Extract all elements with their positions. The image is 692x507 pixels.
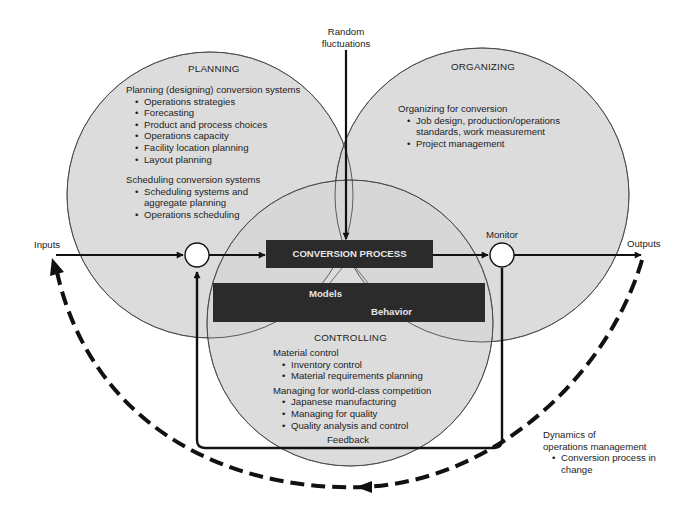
organizing-title: ORGANIZING [451,61,515,73]
planning-content: Planning (designing) conversion systems … [126,84,300,226]
planning-group-designing: Planning (designing) conversion systems … [126,84,300,165]
monitor-node [490,243,514,267]
models-behavior-box [213,283,485,322]
group-heading: Material control [273,347,431,359]
list-item: Operations strategies [135,96,300,108]
controlling-title: CONTROLLING [314,332,387,344]
conversion-process-label: CONVERSION PROCESS [266,248,433,259]
outputs-label: Outputs [627,238,661,250]
dynamics-heading-line: Dynamics of [543,429,656,441]
group-heading: Planning (designing) conversion systems [126,84,300,96]
behavior-label: Behavior [371,306,412,317]
feedback-label: Feedback [327,434,369,446]
list-item: Managing for quality [282,408,431,420]
controlling-group-world-class: Managing for world-class competition Jap… [273,385,431,431]
label-line: fluctuations [300,38,392,50]
list-item: Forecasting [135,107,300,119]
list-item-continuation: change [543,464,656,476]
list-item: Layout planning [135,154,300,166]
list-item: Inventory control [282,359,431,371]
dynamics-content: Dynamics of operations management Conver… [543,429,656,475]
list-item: Operations capacity [135,130,300,142]
list-item: Project management [407,138,560,150]
list-item: Facility location planning [135,142,300,154]
monitor-label: Monitor [486,229,518,241]
random-fluctuations-label: Random fluctuations [300,26,392,49]
group-heading: Organizing for conversion [398,103,560,115]
planning-title: PLANNING [188,63,240,75]
group-heading: Managing for world-class competition [273,385,431,397]
list-item: Product and process choices [135,119,300,131]
list-item: Conversion process in [552,452,656,464]
list-item: standards, work measurement [407,126,560,138]
label-line: Random [300,26,392,38]
list-item: Material requirements planning [282,370,431,382]
controlling-content: Material control Inventory control Mater… [273,347,431,431]
list-item: Quality analysis and control [282,420,431,432]
organizing-content: Organizing for conversion Job design, pr… [398,103,560,149]
dynamics-arc-arrowhead-left [50,258,64,276]
list-item: Job design, production/operations [407,115,560,127]
planning-group-scheduling: Scheduling conversion systems Scheduling… [126,174,300,220]
dynamics-heading-line: operations management [543,441,656,453]
list-item: Japanese manufacturing [282,396,431,408]
controlling-group-material: Material control Inventory control Mater… [273,347,431,382]
dynamics-arc-arrowhead-bottom [356,481,372,493]
list-item: Scheduling systems and [135,186,300,198]
inputs-label: Inputs [34,239,60,251]
input-junction-node [185,243,209,267]
group-heading: Scheduling conversion systems [126,174,300,186]
models-label: Models [309,288,342,299]
list-item: aggregate planning [135,197,300,209]
list-item: Operations scheduling [135,209,300,221]
